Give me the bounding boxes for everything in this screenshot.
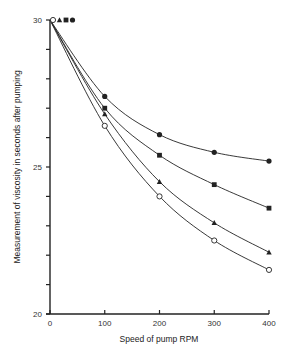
filled-square-marker bbox=[64, 18, 69, 23]
marker-key bbox=[50, 17, 75, 22]
open-circle-marker bbox=[157, 194, 162, 199]
filled-circle-marker bbox=[157, 132, 162, 137]
filled-triangle-marker bbox=[57, 17, 62, 22]
filled-square-marker bbox=[157, 153, 162, 158]
open-circle-marker bbox=[50, 17, 55, 22]
x-tick-label: 200 bbox=[153, 319, 167, 328]
y-tick-label: 25 bbox=[33, 163, 42, 172]
filled-circle-marker bbox=[266, 159, 271, 164]
filled-triangle-marker bbox=[266, 249, 271, 254]
curve-filled-circle bbox=[50, 20, 269, 161]
axes: 0100200300400202530 bbox=[33, 16, 276, 328]
filled-circle-marker bbox=[102, 94, 107, 99]
x-axis-title: Speed of pump RPM bbox=[120, 334, 199, 344]
filled-square-marker bbox=[267, 206, 272, 211]
filled-square-marker bbox=[212, 182, 217, 187]
curves bbox=[50, 20, 269, 270]
y-tick-label: 20 bbox=[33, 310, 42, 319]
y-axis-title: Measurement of viscosity in seconds afte… bbox=[12, 70, 22, 264]
x-tick-label: 100 bbox=[98, 319, 112, 328]
filled-circle-marker bbox=[212, 150, 217, 155]
y-tick-label: 30 bbox=[33, 16, 42, 25]
filled-circle-marker bbox=[70, 17, 75, 22]
x-tick-label: 0 bbox=[48, 319, 53, 328]
open-circle-marker bbox=[212, 238, 217, 243]
markers bbox=[102, 94, 272, 273]
x-tick-label: 300 bbox=[208, 319, 222, 328]
open-circle-marker bbox=[266, 267, 271, 272]
filled-square-marker bbox=[102, 106, 107, 111]
chart: 0100200300400202530 Speed of pump RPM Me… bbox=[0, 0, 288, 363]
x-tick-label: 400 bbox=[262, 319, 276, 328]
open-circle-marker bbox=[102, 123, 107, 128]
curve-open-circle bbox=[50, 20, 269, 270]
filled-triangle-marker bbox=[212, 220, 217, 225]
